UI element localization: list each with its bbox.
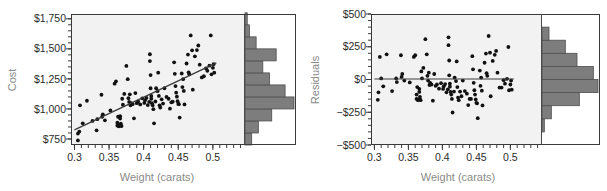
data-point [471, 67, 475, 71]
data-point [447, 59, 451, 63]
x-tick-label: 0.3 [67, 151, 82, 163]
data-point [476, 116, 480, 120]
data-point [465, 92, 469, 96]
data-point [447, 43, 451, 47]
data-point [419, 69, 423, 73]
x-axis-title: Weight (carats) [120, 171, 194, 183]
y-axis-title: Cost [6, 69, 18, 92]
x-tick-label: 0.4 [435, 151, 450, 163]
data-point [493, 53, 497, 57]
y-tick-label: $0 [354, 73, 366, 85]
x-tick-label: 0.45 [168, 151, 189, 163]
x-tick-labels-group: 0.30.350.40.450.5 [367, 151, 518, 163]
data-point [451, 111, 455, 115]
histogram-bar [542, 53, 577, 66]
histogram-bar [245, 37, 256, 49]
data-point [417, 90, 421, 94]
data-point [175, 95, 179, 99]
data-point [190, 48, 194, 52]
data-point [474, 98, 478, 102]
histogram-bar [245, 133, 252, 145]
y-tick-label: $1,750 [34, 12, 66, 24]
data-point [431, 99, 435, 103]
data-point [395, 80, 399, 84]
histogram-bar [245, 109, 272, 121]
data-point [103, 118, 107, 122]
x-axis-title: Weight (carats) [421, 171, 495, 183]
data-point [472, 88, 476, 92]
data-point [472, 81, 476, 85]
data-point [447, 73, 451, 77]
data-point [413, 53, 417, 57]
data-point [500, 86, 504, 90]
data-point [435, 83, 439, 87]
histogram-bar [245, 49, 276, 61]
data-point [78, 103, 82, 107]
data-point [77, 130, 81, 134]
x-tick-label: 0.35 [99, 151, 120, 163]
y-tick-labels-group: −$500−$250$0$250$500 [337, 8, 367, 151]
data-point [469, 97, 473, 101]
data-point [211, 66, 215, 70]
data-point [432, 72, 436, 76]
data-point [174, 91, 178, 95]
data-point [167, 97, 171, 101]
data-point [154, 100, 158, 104]
data-point [100, 93, 104, 97]
data-point [202, 74, 206, 78]
histogram-bar [245, 85, 285, 97]
y-tick-label: −$500 [337, 139, 367, 151]
residuals-vs-weight-svg: 0.30.350.40.450.5 −$500−$250$0$250$500 W… [303, 0, 607, 191]
data-point [152, 121, 156, 125]
x-tick-label: 0.5 [503, 151, 518, 163]
x-tick-label: 0.5 [206, 151, 221, 163]
data-point [381, 84, 385, 88]
data-point [196, 44, 200, 48]
data-point [390, 89, 394, 93]
cost-vs-weight-svg: 0.30.350.40.450.5 $750$1,000$1,250$1,500… [0, 0, 303, 191]
data-point [430, 83, 434, 87]
residuals-vs-weight-panel: 0.30.350.40.450.5 −$500−$250$0$250$500 W… [303, 0, 607, 191]
two-panel-scatter-figure: 0.30.350.40.450.5 $750$1,000$1,250$1,500… [0, 0, 607, 191]
data-point [421, 66, 425, 70]
data-point [488, 51, 492, 55]
y-tick-label: $1,000 [34, 103, 66, 115]
histogram-bar [542, 80, 598, 93]
data-point [76, 139, 80, 143]
data-point [95, 128, 99, 132]
data-point [209, 33, 213, 37]
data-point [118, 117, 122, 121]
data-point [449, 93, 453, 97]
data-point [484, 52, 488, 56]
data-point [148, 59, 152, 63]
data-point [447, 35, 451, 39]
data-point [149, 73, 153, 77]
data-point [481, 104, 485, 108]
data-point [408, 80, 412, 84]
histogram-bar [245, 25, 249, 37]
data-point [377, 90, 381, 94]
data-point [148, 52, 152, 56]
data-point [473, 93, 477, 97]
data-point [478, 69, 482, 73]
data-point [156, 71, 160, 75]
data-point [487, 34, 491, 38]
y-axis-title: Residuals [309, 55, 321, 104]
data-point [149, 97, 153, 101]
data-point [458, 90, 462, 94]
histogram-bar [542, 106, 551, 119]
y-tick-label: $500 [343, 8, 367, 20]
data-point [496, 71, 500, 75]
histogram-bar [245, 97, 294, 109]
histogram-bar [542, 27, 549, 40]
data-point [470, 54, 474, 58]
data-point [378, 55, 382, 59]
data-point [132, 116, 136, 120]
data-point [483, 61, 487, 65]
data-point [133, 91, 137, 95]
data-point [491, 59, 495, 63]
data-point [138, 102, 142, 106]
data-point [212, 71, 216, 75]
plot-background [71, 14, 244, 145]
data-point [122, 92, 126, 96]
